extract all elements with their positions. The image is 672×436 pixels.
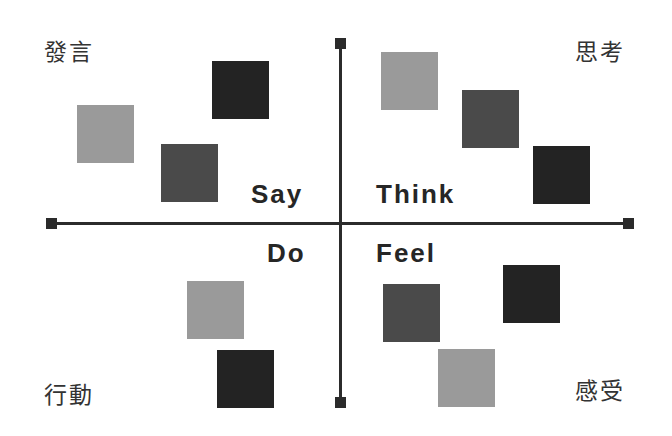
horizontal-axis	[51, 222, 629, 225]
square-think-light	[381, 52, 438, 110]
label-do-chinese: 行動	[44, 384, 94, 407]
label-feel: Feel	[376, 240, 436, 266]
square-think-dark	[462, 90, 519, 148]
label-feel-chinese: 感受	[575, 380, 625, 403]
label-think: Think	[376, 181, 455, 207]
axis-cap-right	[623, 218, 634, 229]
axis-cap-bottom	[335, 397, 346, 408]
square-feel-light	[438, 349, 495, 407]
axis-cap-left	[46, 218, 57, 229]
square-do-light	[187, 281, 244, 339]
label-think-chinese: 思考	[575, 41, 625, 64]
square-do-black	[217, 350, 274, 408]
square-feel-black	[503, 265, 560, 323]
label-do: Do	[267, 240, 306, 266]
square-say-black	[212, 61, 269, 119]
square-think-black	[533, 146, 590, 204]
axis-cap-top	[335, 38, 346, 49]
quadrant-diagram: 發言 思考 行動 感受 Say Think Do Feel	[0, 0, 672, 436]
label-say-chinese: 發言	[44, 41, 94, 64]
label-say: Say	[251, 181, 303, 207]
square-say-light	[77, 105, 134, 163]
square-say-dark	[161, 144, 218, 202]
square-feel-dark	[383, 284, 440, 342]
